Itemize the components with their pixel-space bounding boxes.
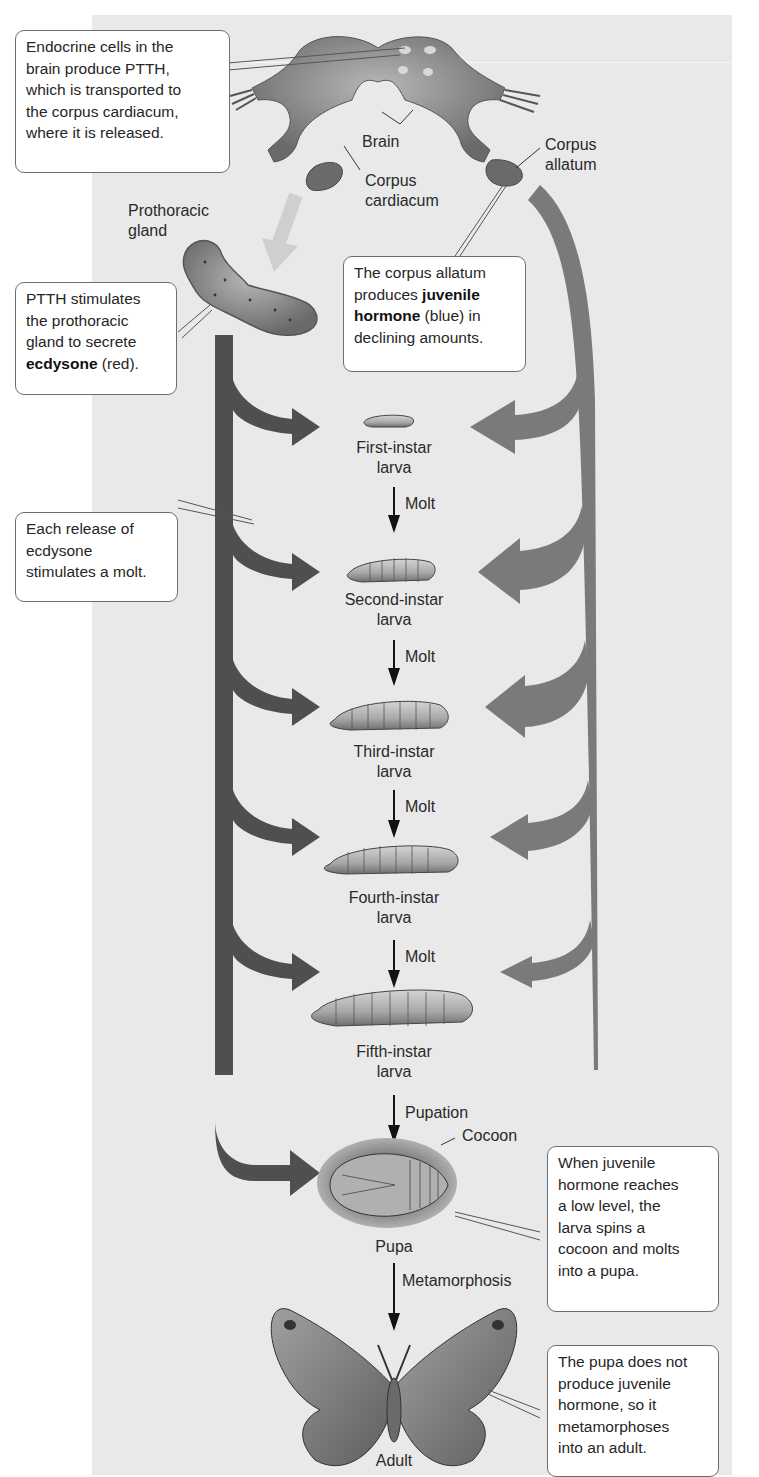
- fifth-instar-larva-illustration: [312, 990, 473, 1026]
- stage-label-fifth-instar: Fifth-instarlarva: [324, 1042, 464, 1082]
- transition-metamorphosis: Metamorphosis: [402, 1271, 511, 1291]
- stage-label-adult: Adult: [334, 1451, 454, 1471]
- ecdysone-arrows: [215, 335, 320, 1196]
- prothoracic-gland-label: Prothoracic gland: [128, 201, 209, 241]
- transition-molt-1: Molt: [405, 494, 435, 514]
- first-instar-larva-illustration: [364, 415, 414, 427]
- ptth-arrow: [262, 195, 298, 272]
- fourth-instar-larva-illustration: [324, 846, 458, 874]
- stage-label-third-instar: Third-instarlarva: [324, 742, 464, 782]
- brain-label: Brain: [362, 132, 399, 152]
- adult-callout: The pupa does not produce juvenile hormo…: [547, 1345, 719, 1477]
- juvenile-hormone-callout: The corpus allatum produces juvenile hor…: [343, 256, 526, 372]
- transition-molt-4: Molt: [405, 947, 435, 967]
- transition-pupation: Pupation: [405, 1103, 468, 1123]
- ecdysone-callout-pointer: [178, 305, 212, 338]
- ecdysone-callout: PTTH stimulates the prothoracic gland to…: [15, 282, 177, 395]
- stage-label-fourth-instar: Fourth-instarlarva: [324, 888, 464, 928]
- adult-moth-illustration: [271, 1309, 540, 1466]
- third-instar-larva-illustration: [330, 701, 448, 730]
- stage-label-first-instar: First-instarlarva: [334, 438, 454, 478]
- prothoracic-gland-illustration: [183, 241, 317, 336]
- molt-release-callout: Each release of ecdysone stimulates a mo…: [15, 512, 178, 602]
- pupa-callout: When juvenile hormone reaches a low leve…: [547, 1146, 719, 1312]
- ecdysone-branch: [233, 380, 320, 446]
- corpus-cardiacum-label: Corpus cardiacum: [365, 171, 439, 211]
- transition-molt-2: Molt: [405, 647, 435, 667]
- ptth-release-callout: Endocrine cells in the brain produce PTT…: [15, 30, 230, 173]
- corpus-allatum-label: Corpus allatum: [545, 135, 597, 175]
- second-instar-larva-illustration: [347, 558, 435, 582]
- stage-label-second-instar: Second-instarlarva: [324, 590, 464, 630]
- pupa-in-cocoon-illustration: [317, 1138, 540, 1240]
- transition-molt-3: Molt: [405, 797, 435, 817]
- stage-label-pupa: Pupa: [334, 1237, 454, 1257]
- cocoon-label: Cocoon: [462, 1126, 517, 1146]
